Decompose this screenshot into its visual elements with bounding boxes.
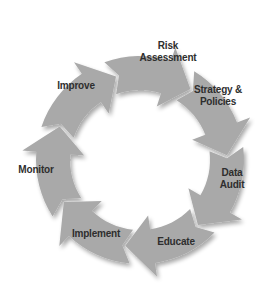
- step-improve: Improve: [57, 80, 95, 92]
- step-implement: Implement: [72, 228, 120, 240]
- step-label-line: Implement: [72, 228, 120, 240]
- step-label-line: Strategy &: [194, 84, 242, 96]
- step-label-line: Improve: [57, 80, 95, 92]
- step-risk-assessment: Risk Assessment: [140, 40, 197, 64]
- step-label-line: Data: [220, 167, 245, 179]
- step-label-line: Policies: [194, 96, 242, 108]
- step-label-line: Educate: [157, 236, 195, 248]
- step-label-line: Assessment: [140, 52, 197, 64]
- step-data-audit: Data Audit: [220, 167, 245, 191]
- step-label-line: Monitor: [18, 164, 53, 176]
- cycle-diagram: Risk Assessment Strategy & Policies Data…: [0, 0, 278, 297]
- step-educate: Educate: [157, 236, 195, 248]
- cycle-arrow-shape: [41, 62, 116, 138]
- step-label-line: Audit: [220, 179, 245, 191]
- step-monitor: Monitor: [18, 164, 53, 176]
- step-strategy-policies: Strategy & Policies: [194, 84, 242, 108]
- step-label-line: Risk: [140, 40, 197, 52]
